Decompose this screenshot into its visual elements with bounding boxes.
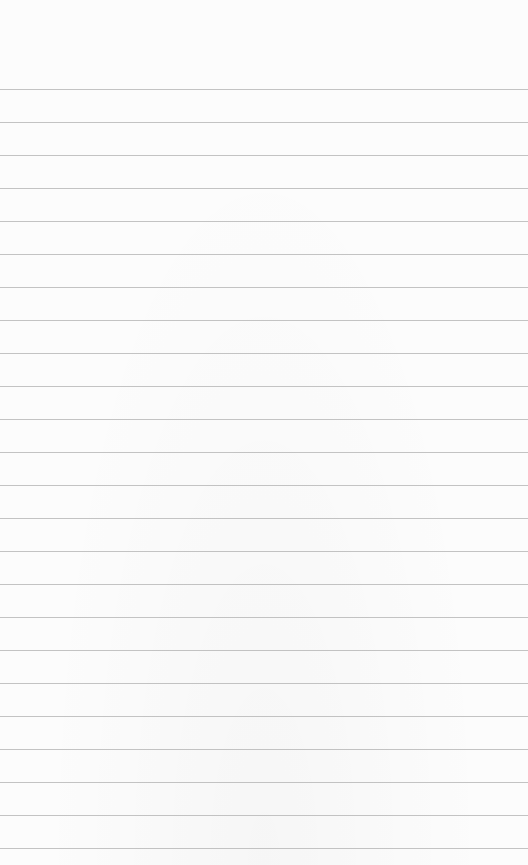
ruled-line [0, 848, 528, 849]
ruled-line [0, 683, 528, 684]
ruled-line [0, 254, 528, 255]
ruled-line [0, 353, 528, 354]
ruled-line [0, 287, 528, 288]
ruled-line [0, 386, 528, 387]
ruled-line [0, 518, 528, 519]
ruled-line [0, 650, 528, 651]
ruled-line [0, 419, 528, 420]
ruled-line [0, 122, 528, 123]
ruled-line [0, 782, 528, 783]
ruled-line [0, 320, 528, 321]
ruled-line [0, 551, 528, 552]
ruled-paper-sheet [0, 0, 528, 865]
ruled-line [0, 221, 528, 222]
ruled-line [0, 485, 528, 486]
ruled-line [0, 716, 528, 717]
ruled-line [0, 89, 528, 90]
ruled-line [0, 815, 528, 816]
ruled-line [0, 584, 528, 585]
ruled-line [0, 188, 528, 189]
ruled-line [0, 155, 528, 156]
ruled-line [0, 452, 528, 453]
ruled-line [0, 617, 528, 618]
ruled-line [0, 749, 528, 750]
